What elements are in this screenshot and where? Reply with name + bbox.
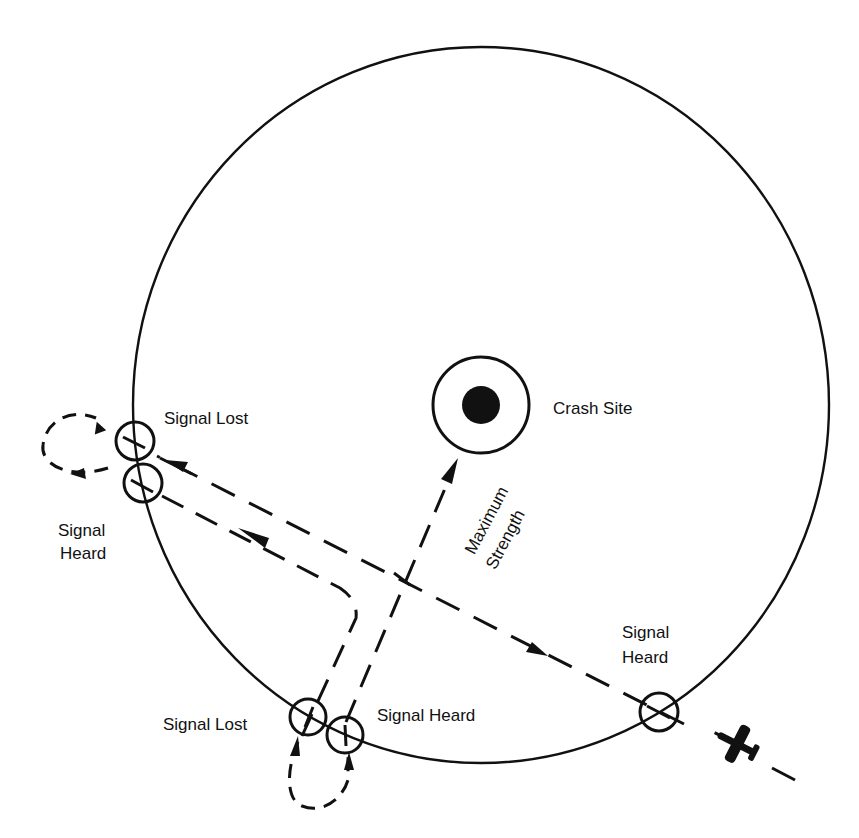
bottom-signal-lost-marker xyxy=(290,699,326,735)
bottom-signal-heard-marker xyxy=(327,717,363,753)
left-signal-heard-label-2: Heard xyxy=(60,543,106,565)
crash-site-label: Crash Site xyxy=(553,398,632,420)
airplane-icon xyxy=(706,714,766,771)
right-signal-heard-label-2: Heard xyxy=(622,647,668,669)
crash-site-icon xyxy=(433,357,529,453)
left-turn-loop xyxy=(43,414,108,479)
second-leg-path xyxy=(162,496,356,736)
left-signal-heard-marker xyxy=(124,464,162,502)
right-signal-heard-label-1: Signal xyxy=(622,622,669,644)
right-signal-heard-marker xyxy=(640,693,678,731)
max-strength-path xyxy=(346,458,458,722)
bottom-turn-loop xyxy=(289,736,354,808)
left-signal-heard-label-1: Signal xyxy=(58,520,105,542)
inbound-path xyxy=(157,456,795,780)
left-signal-lost-label: Signal Lost xyxy=(164,408,248,430)
bottom-signal-heard-label: Signal Heard xyxy=(377,705,475,727)
bottom-signal-lost-label: Signal Lost xyxy=(163,714,247,736)
